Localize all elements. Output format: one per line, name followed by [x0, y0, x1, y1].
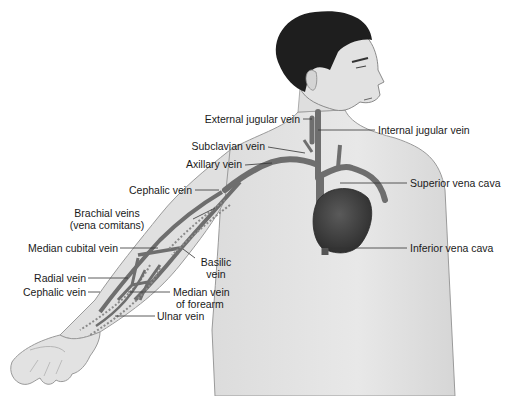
label-median-forearm-line1: Median vein [173, 286, 230, 298]
label-axillary-vein: Axillary vein [140, 158, 242, 170]
label-basilic-line1: Basilic [196, 256, 236, 268]
label-brachial-line2: (vena comitans) [65, 219, 149, 231]
label-brachial-veins: Brachial veins (vena comitans) [65, 207, 149, 231]
label-internal-jugular-vein: Internal jugular vein [378, 124, 470, 136]
label-basilic-vein: Basilic vein [196, 256, 236, 280]
label-cephalic-vein-lower: Cephalic vein [5, 286, 86, 298]
label-basilic-line2: vein [196, 268, 236, 280]
label-superior-vena-cava: Superior vena cava [410, 177, 500, 189]
label-external-jugular-vein: External jugular vein [165, 113, 300, 125]
vein-stub [338, 145, 340, 168]
label-median-vein-of-forearm: Median vein of forearm [173, 286, 230, 310]
anatomy-illustration [0, 0, 515, 396]
label-subclavian-vein: Subclavian vein [160, 140, 265, 152]
label-median-forearm-line2: of forearm [173, 298, 230, 310]
label-ulnar-vein: Ulnar vein [157, 310, 204, 322]
label-median-cubital-vein: Median cubital vein [10, 242, 118, 254]
label-brachial-line1: Brachial veins [65, 207, 149, 219]
hand [11, 332, 100, 384]
label-cephalic-vein-upper: Cephalic vein [90, 184, 192, 196]
label-inferior-vena-cava: Inferior vena cava [410, 242, 493, 254]
vein-diagram: External jugular vein Internal jugular v… [0, 0, 515, 396]
label-radial-vein: Radial vein [10, 272, 86, 284]
